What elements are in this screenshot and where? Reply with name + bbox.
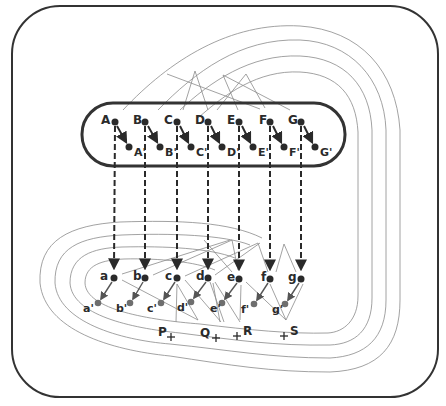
label-C: C (164, 113, 173, 127)
label-g: g (288, 270, 297, 284)
point-f-prime (251, 301, 258, 308)
label-R: R (243, 324, 252, 338)
label-g-prime: g' (272, 303, 283, 316)
point-a-prime (95, 300, 102, 307)
point-C-prime (188, 144, 195, 151)
label-B-prime: B' (165, 146, 177, 159)
point-b-prime (127, 300, 134, 307)
label-a: a (100, 269, 108, 283)
label-B: B (133, 113, 142, 127)
point-B-prime (157, 144, 164, 151)
label-b: b (133, 269, 142, 283)
label-f: f (261, 270, 267, 284)
label-d: d (196, 269, 205, 283)
label-E: E (227, 113, 235, 127)
label-e-prime: e' (210, 302, 221, 315)
label-d-prime: d' (177, 301, 188, 314)
label-G-prime: G' (320, 146, 332, 159)
label-F-prime: F' (289, 146, 300, 159)
label-Q: Q (200, 326, 210, 340)
upper-displacement-arrows (117, 126, 312, 142)
point-F (267, 119, 274, 126)
point-G (298, 119, 305, 126)
label-E-prime: E' (258, 146, 269, 159)
point-e (236, 276, 243, 283)
upper-points: A B C D E F G (101, 113, 305, 127)
label-F: F (259, 113, 267, 127)
point-E-prime (250, 144, 257, 151)
label-D: D (195, 113, 205, 127)
point-b (142, 275, 149, 282)
label-D-prime: D' (227, 146, 240, 159)
point-G-prime (312, 144, 319, 151)
point-g (298, 276, 305, 283)
point-D (205, 119, 212, 126)
lower-primed-points: a' b' c' d' e' f' g' (83, 299, 288, 316)
point-A-prime (126, 144, 133, 151)
label-A-prime: A' (134, 146, 146, 159)
point-f (267, 276, 274, 283)
label-f-prime: f' (241, 303, 249, 316)
label-G: G (288, 113, 298, 127)
point-d-prime (188, 299, 195, 306)
point-F-prime (281, 144, 288, 151)
label-a-prime: a' (83, 302, 94, 315)
label-A: A (101, 113, 111, 127)
label-C-prime: C' (196, 146, 207, 159)
point-A (112, 119, 119, 126)
point-D-prime (219, 144, 226, 151)
label-S: S (290, 324, 299, 338)
label-e: e (227, 270, 235, 284)
label-c: c (165, 269, 172, 283)
point-E (236, 119, 243, 126)
label-c-prime: c' (147, 302, 157, 315)
point-c-prime (158, 300, 165, 307)
point-C (174, 119, 181, 126)
label-P: P (158, 325, 167, 339)
point-d (205, 275, 212, 282)
point-B (142, 119, 149, 126)
point-a (111, 275, 118, 282)
point-c (174, 275, 181, 282)
label-b-prime: b' (116, 302, 127, 315)
mapping-diagram: A B C D E F G A' B' C' D' E' F' G' a b c… (0, 0, 446, 406)
